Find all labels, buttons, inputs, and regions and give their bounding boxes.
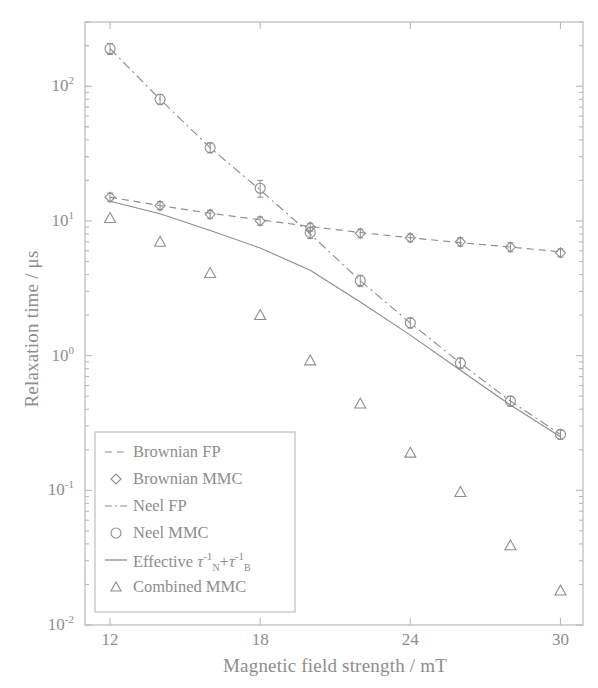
x-tick-label: 30 [530,630,590,650]
y-tick-label: 10-2 [22,613,74,635]
relaxation-time-chart [0,0,598,688]
y-tick-label: 100 [22,344,74,366]
series-brownian-mmc [105,192,565,258]
series-effective-taun-1-taub-1 [110,201,560,436]
series-brownian-fp [110,197,560,252]
x-tick-label: 12 [80,630,140,650]
series-neel-fp [110,49,560,435]
y-tick-label: 101 [22,209,74,231]
x-tick-label: 18 [230,630,290,650]
legend-box [95,432,295,612]
y-tick-label: 102 [22,74,74,96]
series-neel-mmc [105,43,565,439]
x-axis-title: Magnetic field strength / mT [85,655,585,677]
y-tick-label: 10-1 [22,478,74,500]
x-tick-label: 24 [380,630,440,650]
